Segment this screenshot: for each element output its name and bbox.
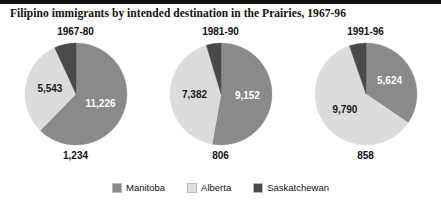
slice-label-alberta: 5,543 xyxy=(37,83,62,94)
legend-swatch-icon xyxy=(187,183,197,193)
slice-label-manitoba: 11,226 xyxy=(85,98,115,109)
pie-chart-figure: Filipino immigrants by intended destinat… xyxy=(0,0,441,208)
pie-svg: 5,624 9,790 xyxy=(314,42,418,146)
slice-label-alberta: 9,790 xyxy=(332,104,357,115)
legend-label: Manitoba xyxy=(126,182,165,193)
pie-svg: 11,226 5,543 xyxy=(24,42,128,146)
slice-label-saskatchewan: 806 xyxy=(147,150,294,161)
panel-title: 1991-96 xyxy=(292,26,439,37)
pie-panel-1981-90: 1981-90 9,152 7,382 806 xyxy=(147,26,294,176)
pie-chart-1967-80: 11,226 5,543 xyxy=(24,42,128,146)
legend-swatch-icon xyxy=(112,183,122,193)
panel-title: 1967-80 xyxy=(2,26,149,37)
legend-item-alberta: Alberta xyxy=(187,182,231,193)
legend-swatch-icon xyxy=(253,183,263,193)
page-title: Filipino immigrants by intended destinat… xyxy=(10,7,435,19)
legend-item-saskatchewan: Saskatchewan xyxy=(253,182,329,193)
pie-chart-1981-90: 9,152 7,382 xyxy=(169,42,273,146)
slice-label-manitoba: 9,152 xyxy=(234,90,259,101)
slice-label-alberta: 7,382 xyxy=(181,89,206,100)
slice-label-saskatchewan: 858 xyxy=(292,150,439,161)
pie-slices-group xyxy=(315,43,417,145)
legend-item-manitoba: Manitoba xyxy=(112,182,165,193)
chart-legend: Manitoba Alberta Saskatchewan xyxy=(0,182,441,193)
legend-label: Saskatchewan xyxy=(267,182,329,193)
panel-title: 1981-90 xyxy=(147,26,294,37)
pie-panel-1967-80: 1967-80 11,226 5,543 1,234 xyxy=(2,26,149,176)
top-rule-divider xyxy=(0,0,441,4)
slice-label-saskatchewan: 1,234 xyxy=(2,150,149,161)
pie-chart-1991-96: 5,624 9,790 xyxy=(314,42,418,146)
slice-label-manitoba: 5,624 xyxy=(376,75,401,86)
pie-svg: 9,152 7,382 xyxy=(169,42,273,146)
pie-panel-1991-96: 1991-96 5,624 9,790 858 xyxy=(292,26,439,176)
legend-label: Alberta xyxy=(201,182,231,193)
